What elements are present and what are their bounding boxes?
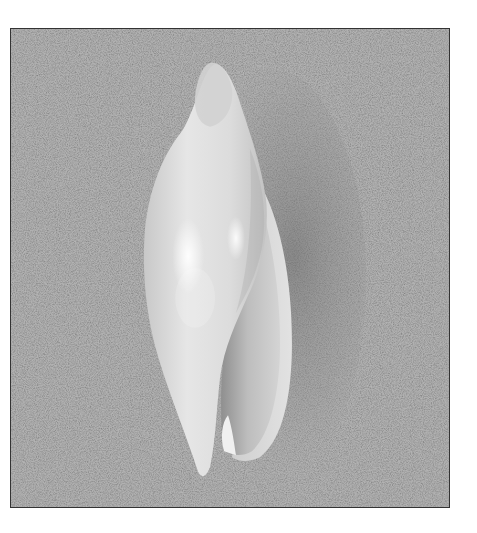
shell-highlight-right	[227, 216, 245, 260]
photo-frame	[10, 28, 450, 508]
shell-photo	[11, 29, 449, 507]
